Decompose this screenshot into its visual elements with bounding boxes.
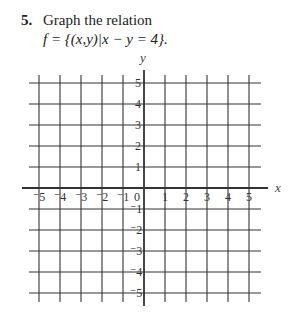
y-tick-label: 5 <box>135 76 141 90</box>
y-tick-label: ⁻3 <box>130 244 142 258</box>
y-tick-label: ⁻2 <box>130 223 142 237</box>
x-tick-label: 5 <box>246 190 252 204</box>
y-tick-label: 2 <box>135 139 141 153</box>
x-tick-label: ⁻3 <box>75 190 87 204</box>
y-tick-label: 3 <box>135 118 141 132</box>
y-tick-label: 1 <box>135 160 141 174</box>
x-tick-label: ⁻1 <box>117 190 129 204</box>
x-tick-label: ⁻4 <box>54 190 66 204</box>
y-tick-label: 4 <box>135 97 141 111</box>
x-tick-label: ⁻2 <box>96 190 108 204</box>
coordinate-grid: ⁻5⁻4⁻3⁻2⁻1012345⁻5⁻4⁻3⁻2⁻112345 x y <box>0 0 296 318</box>
y-tick-label: ⁻5 <box>130 286 142 300</box>
x-tick-label: 1 <box>162 190 168 204</box>
y-tick-label: ⁻1 <box>130 202 142 216</box>
y-axis-label: y <box>138 50 146 65</box>
y-tick-label: ⁻4 <box>130 265 142 279</box>
axes <box>22 70 268 306</box>
x-tick-label: ⁻5 <box>33 190 45 204</box>
x-tick-label: 3 <box>204 190 210 204</box>
x-tick-label: 2 <box>183 190 189 204</box>
x-axis-label: x <box>274 180 281 195</box>
x-tick-label: 4 <box>225 190 231 204</box>
